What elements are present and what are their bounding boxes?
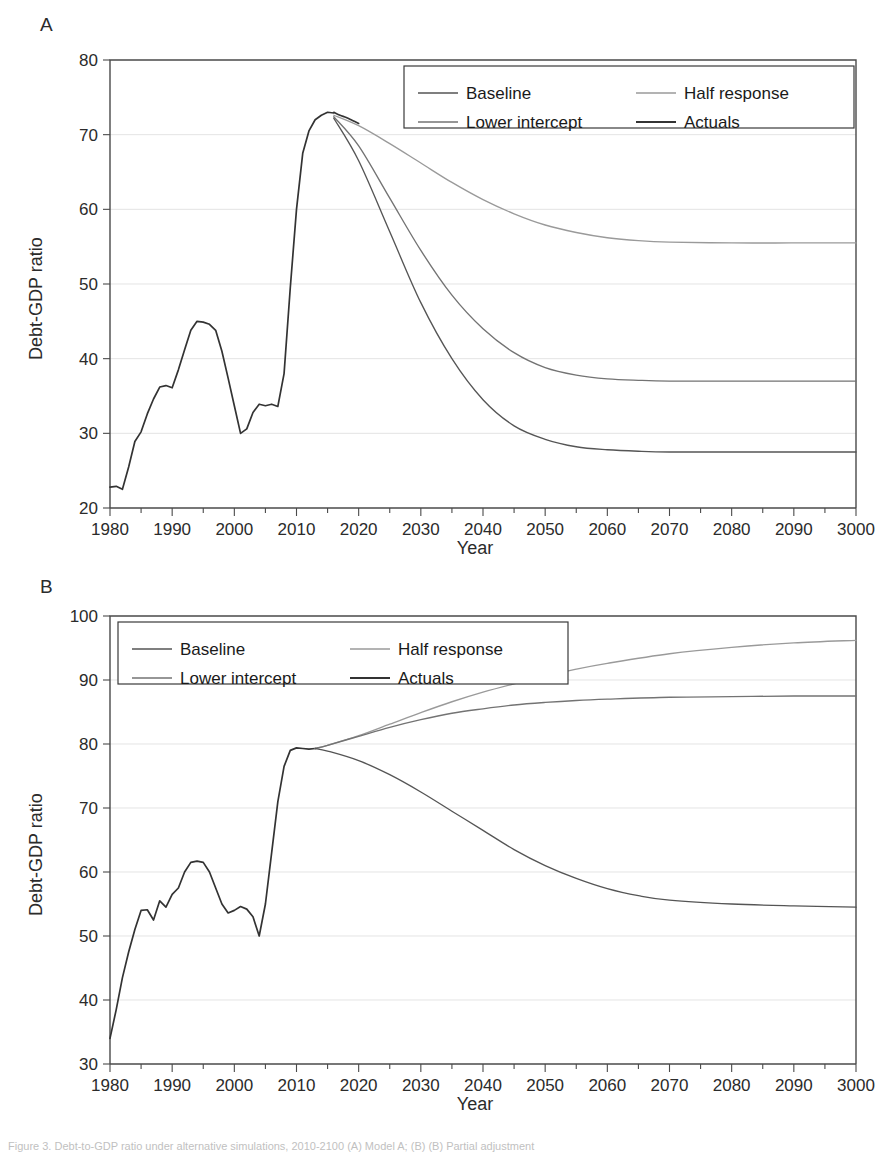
x-tick-label: 2070 — [651, 1076, 689, 1095]
legend: BaselineHalf responseLower interceptActu… — [404, 66, 854, 132]
x-tick-label: 2050 — [526, 1076, 564, 1095]
x-tick-label: 2040 — [464, 520, 502, 539]
x-tick-label: 2090 — [775, 520, 813, 539]
y-tick-label: 20 — [79, 499, 98, 518]
x-tick-label: 2010 — [278, 520, 316, 539]
series-line-historical — [110, 112, 334, 489]
x-tick-label: 2050 — [526, 520, 564, 539]
legend-label-lower-intercept: Lower intercept — [466, 113, 583, 132]
x-tick-label: 2080 — [713, 1076, 751, 1095]
legend-label-half-response: Half response — [398, 640, 503, 659]
figure-caption: Figure 3. Debt-to-GDP ratio under altern… — [8, 1140, 882, 1152]
x-tick-label: 1980 — [91, 520, 129, 539]
series-line-baseline — [334, 118, 856, 452]
y-tick-label: 60 — [79, 200, 98, 219]
series-line-historical — [110, 748, 315, 1039]
y-tick-label: 30 — [79, 1055, 98, 1074]
panel-b-plot: 3040506070809010019801990200020102020203… — [0, 566, 890, 1126]
x-tick-label: 2080 — [713, 520, 751, 539]
x-tick-label: 2030 — [402, 520, 440, 539]
legend-label-half-response: Half response — [684, 84, 789, 103]
x-tick-label: 1990 — [153, 1076, 191, 1095]
y-tick-label: 30 — [79, 424, 98, 443]
legend-label-baseline: Baseline — [466, 84, 531, 103]
x-tick-label: 3000 — [837, 520, 875, 539]
x-tick-label: 2060 — [588, 520, 626, 539]
x-tick-label: 2010 — [278, 1076, 316, 1095]
x-tick-label: 2060 — [588, 1076, 626, 1095]
y-tick-label: 70 — [79, 126, 98, 145]
figure-root: A Debt-GDP ratio Year 203040506070801980… — [0, 0, 890, 1152]
x-tick-label: 1980 — [91, 1076, 129, 1095]
x-tick-label: 2030 — [402, 1076, 440, 1095]
x-tick-label: 2090 — [775, 1076, 813, 1095]
x-tick-label: 2040 — [464, 1076, 502, 1095]
y-tick-label: 50 — [79, 275, 98, 294]
x-tick-label: 2020 — [340, 1076, 378, 1095]
x-tick-label: 1990 — [153, 520, 191, 539]
x-tick-label: 2000 — [215, 520, 253, 539]
series-line-lower-intercept — [334, 117, 856, 381]
x-tick-label: 2020 — [340, 520, 378, 539]
y-tick-label: 50 — [79, 927, 98, 946]
panel-a: A Debt-GDP ratio Year 203040506070801980… — [0, 0, 890, 572]
legend-label-lower-intercept: Lower intercept — [180, 669, 297, 688]
x-tick-label: 3000 — [837, 1076, 875, 1095]
y-tick-label: 80 — [79, 735, 98, 754]
y-tick-label: 80 — [79, 51, 98, 70]
x-tick-label: 2000 — [215, 1076, 253, 1095]
legend-label-actuals: Actuals — [684, 113, 740, 132]
legend-label-actuals: Actuals — [398, 669, 454, 688]
legend: BaselineHalf responseLower interceptActu… — [118, 622, 568, 688]
panel-a-plot: 2030405060708019801990200020102020203020… — [0, 0, 890, 572]
x-tick-label: 2070 — [651, 520, 689, 539]
y-tick-label: 100 — [70, 607, 98, 626]
panel-b: B Debt-GDP ratio Year 304050607080901001… — [0, 566, 890, 1126]
y-tick-label: 90 — [79, 671, 98, 690]
legend-label-baseline: Baseline — [180, 640, 245, 659]
y-tick-label: 70 — [79, 799, 98, 818]
y-tick-label: 60 — [79, 863, 98, 882]
y-tick-label: 40 — [79, 350, 98, 369]
y-tick-label: 40 — [79, 991, 98, 1010]
series-line-baseline — [315, 748, 856, 907]
